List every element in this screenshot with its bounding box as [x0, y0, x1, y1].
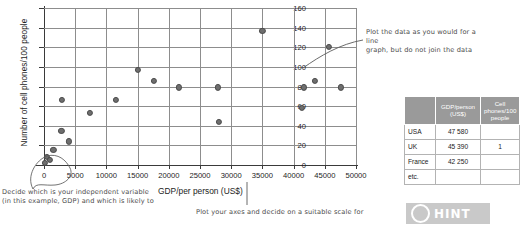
- hint-badge: HINT: [406, 203, 490, 224]
- x-axis-tick-label: 45000: [314, 171, 335, 180]
- table-header-row: GDP/person (US$) Cell phones/100 people: [405, 97, 520, 125]
- x-axis-tick: [106, 165, 107, 169]
- y-axis-tick: [39, 106, 44, 107]
- x-axis-tick-label: 10000: [96, 171, 117, 180]
- y-axis-tick: [39, 8, 44, 9]
- table-cell-country: etc.: [405, 169, 436, 184]
- y-axis-title: Number of cell phones/100 people: [20, 3, 29, 163]
- table-row: USA47 580: [405, 124, 520, 139]
- table-header-phones: Cell phones/100 people: [481, 97, 520, 125]
- x-axis-tick: [138, 165, 139, 169]
- data-point: [151, 78, 157, 84]
- table-header-country: [405, 97, 436, 125]
- x-axis-tick: [169, 165, 170, 169]
- table-body: USA47 580UK45 3901France42 250etc.: [405, 124, 520, 184]
- hint-label: HINT: [434, 207, 471, 221]
- data-point: [176, 84, 182, 90]
- table-cell-gdp: 45 390: [436, 139, 481, 154]
- gridline-vertical: [138, 8, 139, 165]
- data-point: [338, 84, 344, 90]
- annotation-left: Decide which is your independent variabl…: [2, 188, 182, 206]
- x-axis-tick-label: 0: [42, 171, 46, 180]
- data-point: [66, 138, 72, 144]
- x-axis-tick-label: 50000: [345, 171, 366, 180]
- gridline-vertical: [106, 8, 107, 165]
- y-axis-tick: [39, 145, 44, 146]
- x-axis-tick: [294, 165, 295, 169]
- table-cell-country: France: [405, 154, 436, 169]
- table-cell-phones: 1: [481, 139, 520, 154]
- table-cell-phones: [481, 154, 520, 169]
- y-axis-tick: [39, 87, 44, 88]
- gridline-vertical: [169, 8, 170, 165]
- data-point: [325, 44, 331, 50]
- x-axis-tick: [75, 165, 76, 169]
- x-axis-tick-label: 20000: [158, 171, 179, 180]
- x-axis-tick-label: 25000: [189, 171, 210, 180]
- data-point: [86, 110, 92, 116]
- data-point: [58, 128, 64, 134]
- gridline-vertical: [75, 8, 76, 165]
- x-axis-tick: [231, 165, 232, 169]
- table-cell-country: UK: [405, 139, 436, 154]
- x-axis-tick-label: 30000: [221, 171, 242, 180]
- scatter-chart: Number of cell phones/100 people 0204060…: [0, 0, 372, 200]
- gridline-vertical: [200, 8, 201, 165]
- data-point: [312, 78, 318, 84]
- data-point: [259, 27, 265, 33]
- data-point: [50, 147, 56, 153]
- x-axis-tick-label: 5000: [67, 171, 84, 180]
- x-axis-tick: [356, 165, 357, 169]
- table-cell-phones: [481, 124, 520, 139]
- x-axis-tick: [262, 165, 263, 169]
- circle-icon: [411, 204, 430, 223]
- y-axis-tick: [39, 67, 44, 68]
- gridline-vertical: [294, 8, 295, 165]
- gridline-vertical: [356, 8, 357, 165]
- table-row: etc.: [405, 169, 520, 184]
- table-row: UK45 3901: [405, 139, 520, 154]
- annotation-bottom: Plot your axes and decide on a suitable …: [196, 208, 396, 217]
- annotation-right: Plot the data as you would for a line gr…: [366, 28, 490, 55]
- table-cell-country: USA: [405, 124, 436, 139]
- data-point: [47, 157, 53, 163]
- y-axis-tick: [39, 47, 44, 48]
- x-axis-tick-label: 15000: [127, 171, 148, 180]
- gridline-vertical: [231, 8, 232, 165]
- table-cell-gdp: 42 250: [436, 154, 481, 169]
- x-axis-tick: [325, 165, 326, 169]
- table-header-gdp: GDP/person (US$): [436, 97, 481, 125]
- data-point: [59, 97, 65, 103]
- table-cell-gdp: [436, 169, 481, 184]
- x-axis-line: [36, 165, 358, 166]
- data-point: [215, 84, 221, 90]
- data-point: [113, 97, 119, 103]
- data-point: [301, 84, 307, 90]
- plot-area: 0204060801001201401600500010000150002000…: [44, 8, 356, 165]
- table-row: France42 250: [405, 154, 520, 169]
- x-axis-tick: [200, 165, 201, 169]
- data-point: [135, 67, 141, 73]
- table-cell-phones: [481, 169, 520, 184]
- table-cell-gdp: 47 580: [436, 124, 481, 139]
- y-axis-tick: [39, 126, 44, 127]
- x-axis-tick-label: 35000: [252, 171, 273, 180]
- gridline-vertical: [325, 8, 326, 165]
- y-axis-tick: [39, 28, 44, 29]
- data-point: [216, 119, 222, 125]
- x-axis-tick-label: 40000: [283, 171, 304, 180]
- data-table: GDP/person (US$) Cell phones/100 people …: [404, 96, 520, 185]
